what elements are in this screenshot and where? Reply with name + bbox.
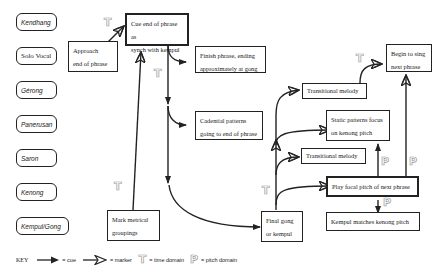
legend-marker-label: = marker — [110, 257, 132, 263]
box-mark-metrical: Mark metrical groupings — [107, 210, 160, 241]
legend: KEY = cue = marker T = time domain P = p… — [16, 253, 237, 266]
instrument-solo-vocal: Solo Vocal — [16, 47, 57, 65]
legend-pitch-label: = pitch domain — [201, 257, 237, 263]
box-text-line: synch with kempul — [131, 43, 183, 56]
box-approach-end-of-phrase: Approach end of phrase — [68, 41, 118, 72]
box-text-line: next phrase — [391, 60, 427, 73]
arrow-mark-to-cue — [133, 52, 141, 210]
box-text-line: Mark metrical — [112, 213, 155, 226]
pitch-domain-icon: P — [190, 253, 198, 266]
legend-time-label: = time domain — [149, 257, 184, 263]
box-text-line: on kenong pitch — [331, 126, 385, 139]
time-domain-icon: T — [356, 52, 364, 65]
marker-arrow-icon — [83, 255, 107, 265]
instrument-kenong: Kenong — [16, 183, 57, 201]
box-text-line: end of phrase — [73, 57, 113, 70]
box-begin-to-sing: Begin to sing next phrase — [386, 44, 432, 72]
pitch-domain-icon: P — [383, 196, 391, 209]
box-text-line: groupings — [112, 226, 155, 239]
legend-cue-label: = cue — [62, 257, 76, 263]
instrument-panerusan: Panerusan — [16, 115, 57, 133]
instrument-kendhang: Kendhang — [16, 13, 57, 31]
arrow-to-play-focal — [276, 186, 330, 205]
box-text-line: Finish phrase, ending — [200, 49, 261, 62]
box-kempul-matches: Kempul matches kenong pitch — [326, 212, 420, 231]
box-cadential-patterns: Cadential patterns going to end of phras… — [195, 111, 263, 140]
arrow-to-cadential — [168, 106, 186, 125]
box-finish-phrase: Finish phrase, ending approximately at g… — [195, 46, 266, 73]
box-text-line: Static patterns focus — [331, 113, 385, 126]
box-text-line: approximately at gong — [200, 62, 261, 75]
instrument-gerong: Gérong — [16, 81, 57, 99]
arrow-to-transitional-top — [276, 90, 299, 115]
instrument-saron: Saron — [16, 149, 57, 167]
time-domain-icon: T — [139, 253, 147, 266]
box-final-gong: Final gong or kempul — [261, 211, 303, 242]
pitch-domain-icon: P — [381, 155, 389, 168]
time-domain-icon: T — [154, 67, 162, 80]
box-cue-end-of-phrase: Cue end of phrase as synch with kempul — [125, 13, 189, 46]
box-text-line: or kempul — [266, 227, 298, 240]
box-text-line: Final gong — [266, 214, 298, 227]
cue-arrow-icon — [37, 256, 59, 264]
box-text-line: Begin to sing — [391, 47, 427, 60]
box-static-patterns: Static patterns focus on kenong pitch — [326, 110, 390, 141]
box-play-focal-pitch: Play focal pitch of next phrase — [326, 176, 419, 197]
time-domain-icon: T — [262, 184, 270, 197]
box-text-line: Cue end of phrase as — [131, 17, 183, 43]
arrow-to-begin — [360, 64, 382, 83]
diagram-canvas: Kendhang Solo Vocal Gérong Panerusan Sar… — [0, 0, 445, 279]
time-domain-icon: T — [114, 180, 122, 193]
legend-title: KEY — [16, 257, 28, 263]
arrow-to-transitional-mid — [276, 157, 299, 175]
box-text-line: Approach — [73, 44, 113, 57]
box-transitional-melody-top: Transitional melody — [302, 83, 367, 99]
box-transitional-melody-mid: Transitional melody — [301, 148, 366, 164]
box-text-line: Cadential patterns — [200, 114, 258, 127]
box-text-line: going to end of phrase — [200, 127, 258, 140]
instrument-kempul-gong: Kempul/Gong — [16, 217, 69, 235]
time-domain-icon: T — [104, 16, 112, 29]
arrow-to-static — [276, 130, 330, 145]
arrow-to-final-gong — [169, 185, 260, 227]
pitch-domain-icon: P — [409, 155, 417, 168]
